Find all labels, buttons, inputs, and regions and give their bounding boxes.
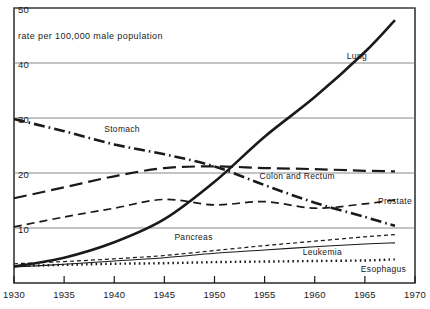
plot-frame bbox=[14, 8, 415, 283]
y-tick-label: 10 bbox=[18, 224, 29, 235]
cancer-death-rate-chart: rate per 100,000 male population 1020304… bbox=[0, 0, 430, 309]
x-tick-label: 1930 bbox=[3, 289, 25, 300]
x-tick-label: 1960 bbox=[304, 289, 326, 300]
x-tick-marks bbox=[14, 276, 415, 283]
series-label-leukemia: Leukemia bbox=[303, 247, 342, 257]
chart-title: rate per 100,000 male population bbox=[18, 31, 163, 41]
series-line-prostate bbox=[14, 199, 395, 227]
x-tick-label: 1970 bbox=[404, 289, 426, 300]
series-label-esophagus: Esophagus bbox=[361, 264, 406, 274]
series-line-lung bbox=[14, 20, 395, 266]
x-tick-label: 1955 bbox=[254, 289, 276, 300]
series-line-colon-and-rectum bbox=[14, 166, 395, 198]
series-label-prostate: Prostate bbox=[378, 196, 412, 206]
series-label-stomach: Stomach bbox=[104, 124, 140, 134]
y-tick-label: 20 bbox=[18, 169, 29, 180]
gridlines bbox=[14, 8, 415, 228]
x-tick-label: 1940 bbox=[103, 289, 125, 300]
series-label-pancreas: Pancreas bbox=[174, 232, 212, 242]
plot-area bbox=[0, 0, 430, 309]
x-tick-label: 1945 bbox=[153, 289, 175, 300]
series-line-esophagus bbox=[14, 259, 395, 266]
x-tick-label: 1935 bbox=[53, 289, 75, 300]
series-label-lung: Lung bbox=[347, 51, 367, 61]
series-line-stomach bbox=[14, 119, 395, 226]
y-tick-label: 50 bbox=[18, 4, 29, 15]
x-tick-label: 1965 bbox=[354, 289, 376, 300]
series-lines bbox=[14, 20, 395, 267]
x-tick-label: 1950 bbox=[204, 289, 226, 300]
series-label-colon-and-rectum: Colon and Rectum bbox=[260, 171, 335, 181]
y-tick-label: 40 bbox=[18, 59, 29, 70]
y-tick-label: 30 bbox=[18, 114, 29, 125]
